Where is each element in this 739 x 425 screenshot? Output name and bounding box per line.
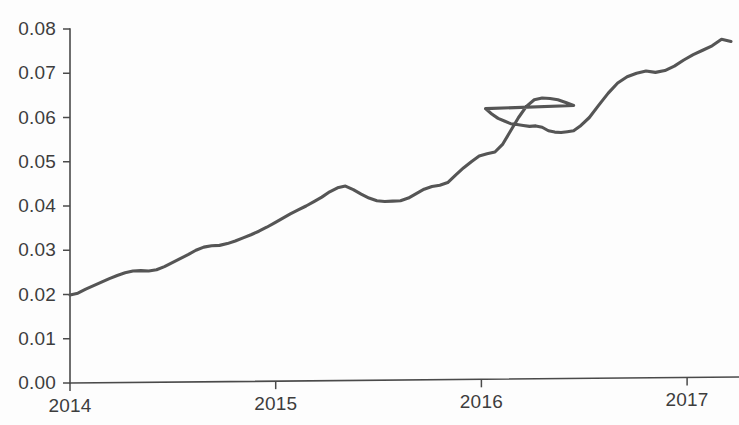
data-series-line bbox=[70, 39, 731, 295]
axes-group bbox=[63, 29, 739, 391]
x-axis-line bbox=[70, 377, 739, 383]
y-axis-tick-label: 0.05 bbox=[0, 151, 56, 173]
x-axis-tick-label: 2016 bbox=[455, 391, 507, 413]
data-group bbox=[70, 39, 731, 295]
y-axis-tick-label: 0.07 bbox=[0, 62, 56, 84]
y-axis-tick-label: 0.08 bbox=[0, 18, 56, 40]
y-axis-tick-label: 0.04 bbox=[0, 195, 56, 217]
y-axis-ticks bbox=[63, 29, 70, 383]
chart-canvas bbox=[0, 0, 739, 425]
x-axis-tick-label: 2014 bbox=[44, 395, 96, 417]
line-chart: 0.000.010.020.030.040.050.060.070.08 201… bbox=[0, 0, 739, 425]
x-axis-tick-label: 2015 bbox=[250, 393, 302, 415]
y-axis-tick-label: 0.03 bbox=[0, 239, 56, 261]
y-axis-tick-label: 0.00 bbox=[0, 372, 56, 394]
y-axis-tick-label: 0.02 bbox=[0, 284, 56, 306]
y-axis-tick-label: 0.01 bbox=[0, 328, 56, 350]
y-axis-tick-label: 0.06 bbox=[0, 107, 56, 129]
x-axis-tick-label: 2017 bbox=[661, 389, 713, 411]
